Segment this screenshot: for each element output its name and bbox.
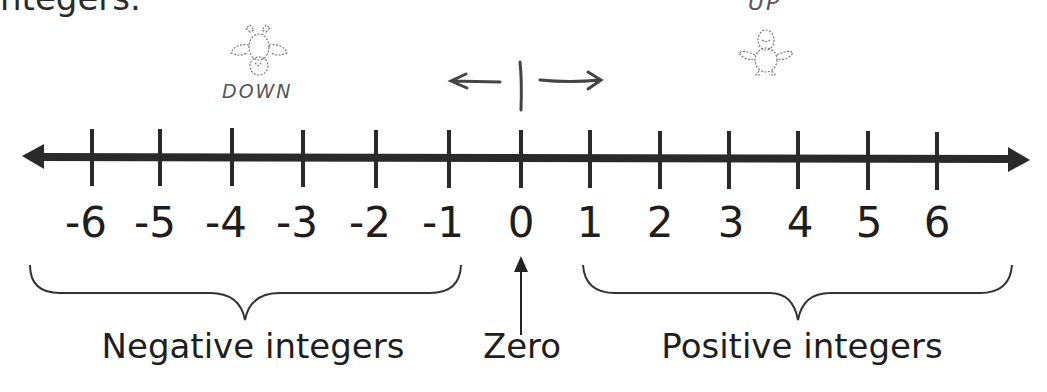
up-arrowhead-icon: [514, 256, 528, 272]
tick-label: -1: [422, 198, 464, 247]
tick-label: 5: [856, 198, 883, 247]
tick-label: 2: [647, 198, 674, 247]
tick-label: -6: [65, 198, 107, 247]
positive-brace: [583, 265, 1012, 320]
right-arrowhead-icon: [1008, 147, 1030, 172]
left-arrowhead-icon: [22, 144, 44, 169]
tick-label: 6: [924, 198, 951, 247]
upside-down-duck-icon: [231, 25, 287, 75]
zero-divider-mark: [520, 62, 521, 110]
negative-brace: [30, 265, 461, 320]
number-line-diagram: ntegers. UP DOWN: [0, 0, 1047, 392]
left-direction-arrow-icon: [451, 74, 500, 88]
tick-label: 0: [508, 198, 535, 247]
tick-label: -2: [349, 198, 391, 247]
tick-label: 1: [577, 198, 604, 247]
tick-label: -3: [276, 198, 318, 247]
zero-label: Zero: [483, 326, 561, 366]
negative-integers-label: Negative integers: [102, 326, 405, 366]
axis: [22, 144, 1030, 172]
duck-icon: [739, 30, 793, 75]
direction-arrows: [451, 62, 601, 110]
positive-integers-label: Positive integers: [661, 326, 942, 366]
tick-label: 4: [787, 198, 814, 247]
tick-label: -4: [205, 198, 247, 247]
tick-label: -5: [134, 198, 176, 247]
right-direction-arrow-icon: [540, 72, 601, 89]
tick-label: 3: [718, 198, 745, 247]
zero-pointer-arrow: [514, 256, 528, 335]
